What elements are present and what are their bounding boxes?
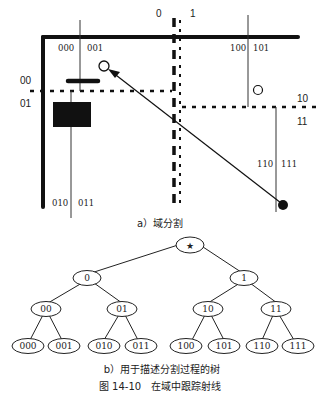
domain-partition-diagram: 0 1 00 01 10 11 000 001 010 011 100 101 …: [0, 0, 322, 396]
tree-node-11: 11: [270, 304, 281, 314]
tree-node-000: 000: [19, 341, 36, 351]
ray-target-circle: [99, 61, 109, 71]
caption-a: a）域分割: [137, 215, 183, 230]
tree-nodes: [12, 237, 314, 354]
tree-node-010: 010: [95, 341, 112, 351]
tree-node-1: 1: [241, 273, 247, 283]
region-101: 101: [253, 43, 269, 53]
tree-node-110: 110: [253, 341, 270, 351]
tree-node-001: 001: [55, 341, 72, 351]
label-01: 01: [20, 98, 32, 109]
circle-object-101: [254, 86, 263, 95]
label-11: 11: [297, 116, 308, 127]
label-10: 10: [297, 93, 309, 104]
region-010: 010: [52, 198, 68, 208]
tree-node-111: 111: [289, 341, 306, 351]
region-100: 100: [230, 43, 246, 53]
region-011: 011: [78, 198, 94, 208]
region-110: 110: [257, 159, 273, 169]
black-box-object: [53, 102, 91, 127]
tree-node-01: 01: [116, 304, 127, 314]
tree-edges: [30, 245, 294, 340]
caption-b: b）用于描述分割过程的树: [104, 361, 220, 376]
tree-node-0: 0: [84, 273, 90, 283]
tree-node-101: 101: [215, 341, 232, 351]
label-00: 00: [20, 75, 32, 86]
tree-node-100: 100: [177, 341, 194, 351]
region-111: 111: [281, 159, 297, 169]
tree-node-011: 011: [132, 341, 149, 351]
label-0: 0: [156, 8, 162, 19]
figure-title: 图 14-10 在域中跟踪射线: [99, 378, 221, 393]
region-001: 001: [87, 43, 103, 53]
split-line-vertical: [174, 18, 180, 207]
region-000: 000: [58, 43, 74, 53]
tree-node-10: 10: [202, 304, 214, 314]
tree-node-00: 00: [40, 304, 52, 314]
label-1: 1: [190, 8, 196, 19]
tree-root: ★: [186, 241, 194, 251]
